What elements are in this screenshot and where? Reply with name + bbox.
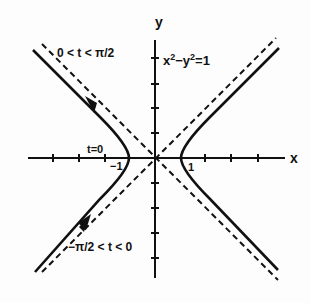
- neg-one-label: −1: [110, 161, 123, 172]
- t-zero-label: t=0: [87, 144, 103, 155]
- x-axis-label: x: [290, 151, 298, 165]
- equation-label: x2−y2=1: [163, 53, 210, 67]
- pos-one-label: 1: [188, 162, 194, 173]
- asymptote-y-x: [42, 38, 276, 272]
- lower-branch-label: −π/2 < t < 0: [68, 241, 132, 253]
- upper-branch-label: 0 < t < π/2: [57, 47, 114, 59]
- hyperbola-figure: y x x2−y2=1 0 < t < π/2 −π/2 < t < 0 t=0…: [0, 0, 311, 303]
- hyperbola-plot: [0, 0, 311, 303]
- y-axis-label: y: [155, 15, 163, 29]
